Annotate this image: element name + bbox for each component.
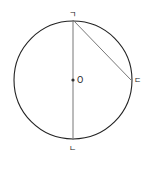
point-label-right: ㄷ [134, 76, 141, 85]
geometry-diagram: O ㄱ ㄴ ㄷ [0, 0, 154, 187]
center-point [71, 78, 74, 81]
point-label-bottom: ㄴ [69, 144, 76, 153]
center-label: O [77, 76, 83, 85]
point-label-top: ㄱ [69, 10, 76, 19]
